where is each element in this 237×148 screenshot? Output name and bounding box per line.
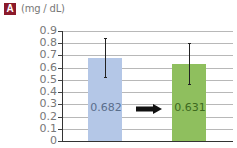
x-axis bbox=[62, 141, 233, 142]
y-axis bbox=[62, 31, 63, 142]
y-tick-label: 0.9 bbox=[40, 25, 58, 36]
y-tick-label: 0.7 bbox=[40, 49, 58, 60]
y-tick-label: 0.2 bbox=[40, 111, 58, 122]
bar-value-label: 0.631 bbox=[173, 101, 207, 114]
bar-value-label: 0.682 bbox=[89, 101, 123, 114]
y-tick-label: 0.4 bbox=[40, 86, 58, 97]
error-bar-cap bbox=[188, 84, 191, 85]
y-tick-label: 0.1 bbox=[40, 123, 58, 134]
error-bar-cap bbox=[188, 43, 191, 44]
gridline bbox=[62, 31, 233, 32]
y-tick-label: 0.8 bbox=[40, 37, 58, 48]
y-axis-unit-label: (mg / dL) bbox=[21, 3, 65, 14]
error-bar bbox=[105, 38, 106, 77]
y-tick-label: 0.3 bbox=[40, 98, 58, 109]
gridline bbox=[62, 43, 233, 44]
error-bar-cap bbox=[104, 38, 107, 39]
error-bar-cap bbox=[104, 77, 107, 78]
y-tick-label: 0 bbox=[50, 135, 57, 146]
gridline bbox=[62, 55, 233, 56]
y-tick-label: 0.6 bbox=[40, 62, 58, 73]
error-bar bbox=[189, 43, 190, 83]
right-arrow-icon bbox=[136, 104, 162, 114]
y-tick-label: 0.5 bbox=[40, 74, 58, 85]
panel-label-badge: A bbox=[4, 3, 16, 15]
